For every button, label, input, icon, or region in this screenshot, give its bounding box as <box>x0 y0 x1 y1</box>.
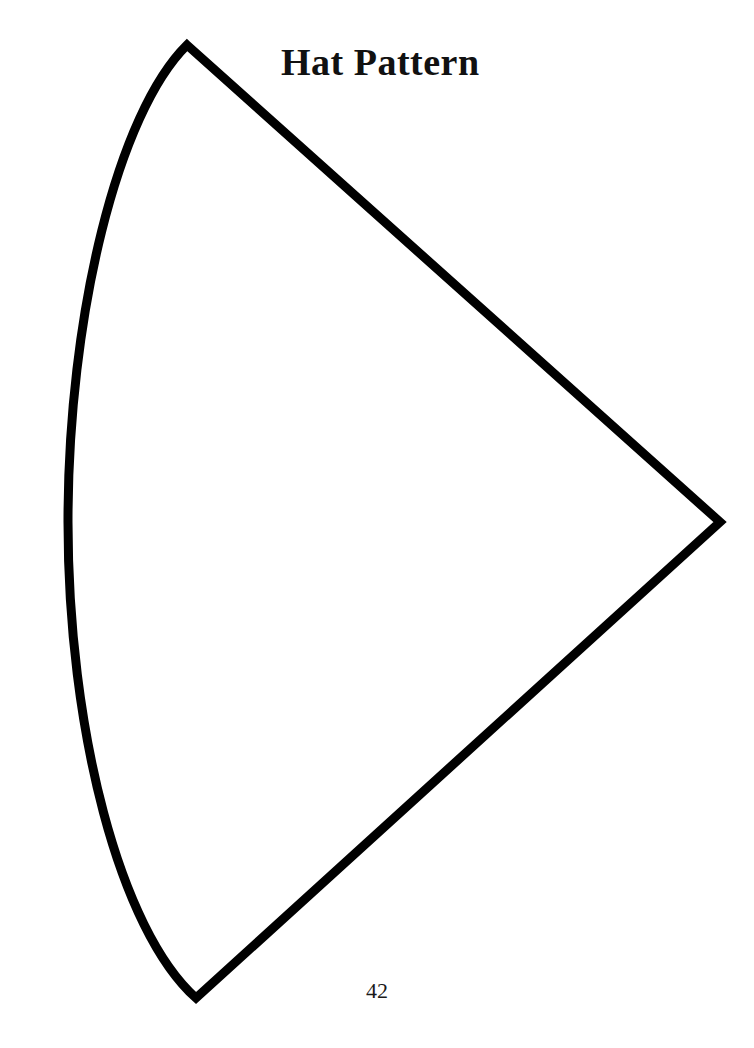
hat-pattern-shape <box>0 0 754 1048</box>
page-number: 42 <box>0 978 754 1004</box>
page-title: Hat Pattern <box>281 40 511 84</box>
page-canvas: Hat Pattern 42 <box>0 0 754 1048</box>
hat-pattern-outline-path <box>68 45 720 998</box>
